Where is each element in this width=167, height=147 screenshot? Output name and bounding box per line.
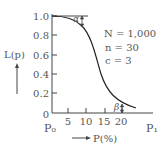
beta-arrow-icon <box>121 104 124 113</box>
svg-text:15: 15 <box>98 116 111 127</box>
p1-label: P₁ <box>146 122 158 135</box>
p0-label: P₀ <box>44 122 56 135</box>
svg-text:20: 20 <box>115 116 128 127</box>
svg-text:0.8: 0.8 <box>33 30 49 41</box>
svg-text:1.0: 1.0 <box>33 11 49 22</box>
svg-text:10: 10 <box>80 116 93 127</box>
svg-text:0: 0 <box>43 109 49 120</box>
y-arrow-head-icon <box>15 63 19 68</box>
x-axis-label: P(%) <box>93 133 117 144</box>
alpha-label: α <box>73 14 79 24</box>
y-ticks <box>52 16 57 93</box>
sampling-parameters: N = 1,000 n = 30 c = 3 <box>104 28 156 66</box>
x-tick-labels: 5 10 15 20 <box>65 116 128 127</box>
oc-curve-chart: 1.0 0.8 0.6 0.4 0.2 0 5 10 15 20 P₀ P₁ P… <box>0 0 167 147</box>
y-tick-labels: 1.0 0.8 0.6 0.4 0.2 0 <box>33 11 49 120</box>
svg-text:0.6: 0.6 <box>33 50 49 61</box>
svg-text:c = 3: c = 3 <box>105 55 132 66</box>
svg-text:n = 30: n = 30 <box>105 42 139 53</box>
alpha-arrow-icon <box>81 16 84 27</box>
y-axis-label: L(p) <box>4 49 25 60</box>
beta-label: β <box>113 102 119 112</box>
svg-text:5: 5 <box>65 116 71 127</box>
svg-text:0.4: 0.4 <box>33 69 49 80</box>
x-arrow-head-icon <box>86 136 91 140</box>
svg-text:N = 1,000: N = 1,000 <box>104 28 156 39</box>
svg-text:0.2: 0.2 <box>33 88 49 99</box>
